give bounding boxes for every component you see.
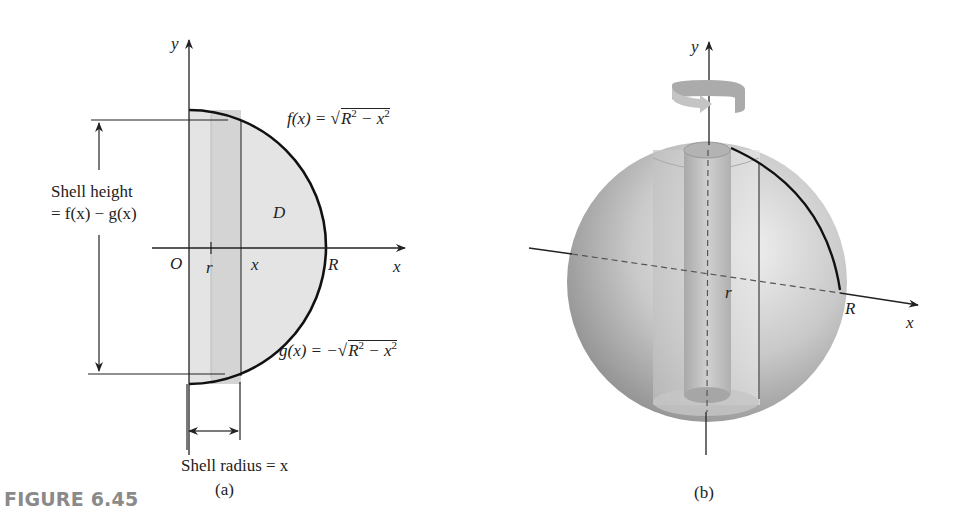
shell-strip	[211, 110, 241, 384]
figure-number-label: FIGURE 6.45	[4, 488, 138, 510]
x-axis-label-b: x	[906, 314, 914, 331]
region-d-label: D	[273, 204, 285, 221]
caption-b: (b)	[694, 484, 714, 501]
shell-height-label-line1: Shell height	[51, 183, 133, 200]
x-axis-label-a: x	[393, 258, 401, 275]
panel-b-diagram	[529, 42, 918, 455]
panel-a-diagram	[88, 40, 405, 455]
g-equation: g(x) = −√R2 − x2	[279, 340, 397, 359]
caption-a: (a)	[215, 481, 234, 498]
shell-radius-label: Shell radius = x	[181, 457, 288, 474]
origin-label: O	[170, 255, 182, 272]
figure-canvas	[0, 0, 965, 532]
point-r-label-b: R	[845, 300, 855, 317]
point-r-label: R	[328, 256, 338, 273]
shell-height-label-line2: = f(x) − g(x)	[51, 205, 137, 222]
f-equation: f(x) = √R2 − x2	[287, 108, 390, 127]
tick-x-label: x	[251, 256, 259, 273]
y-axis-label-a: y	[171, 35, 179, 52]
tick-r-label: r	[206, 259, 213, 276]
tick-r-label-b: r	[725, 284, 732, 301]
y-axis-label-b: y	[691, 38, 699, 55]
